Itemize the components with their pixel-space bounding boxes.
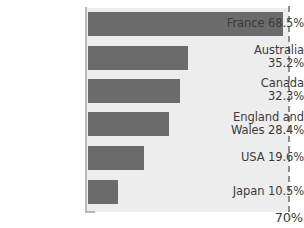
category-label-usa: USA 19.6% [221,151,304,164]
x-axis-baseline [85,211,95,213]
bar-chart: France 68.5% Australia 35.2% Canada 32.3… [0,0,304,228]
bar-usa [88,146,144,170]
category-label-line2: 32.3% [221,90,304,103]
bar-canada [88,79,180,103]
bar-australia [88,46,188,70]
category-label-line1: Canada [261,76,304,90]
category-label-japan: Japan 10.5% [221,185,304,198]
category-label-line1: England and [233,110,304,124]
axis-max-label: 70% [275,210,303,226]
category-label-australia: Australia 35.2% [221,44,304,70]
y-axis-line [85,7,87,213]
category-label-england-and-wales: England and Wales 28.4% [221,111,304,137]
bar-japan [88,180,118,204]
category-label-line1: USA 19.6% [241,150,304,164]
bar-england-and-wales [88,112,169,136]
category-label-line2: 35.2% [221,57,304,70]
cropped-title-remnant [95,0,245,4]
category-label-line2: Wales 28.4% [221,124,304,137]
category-label-line1: France 68.5% [227,16,304,30]
category-label-france: France 68.5% [221,17,304,30]
category-label-line1: Japan 10.5% [233,184,304,198]
category-label-canada: Canada 32.3% [221,77,304,103]
reference-line-70-percent [288,6,290,212]
category-label-line1: Australia [254,43,304,57]
